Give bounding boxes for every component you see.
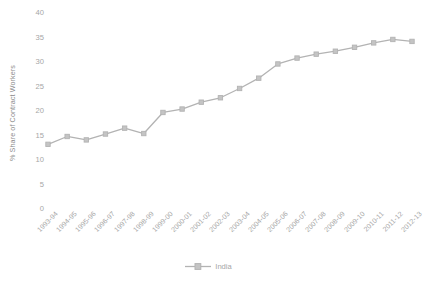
- y-axis-title: % Share of Contract Workers: [8, 0, 22, 48]
- data-point: [218, 96, 222, 100]
- data-point: [46, 142, 50, 146]
- legend-item-label-india: India: [215, 262, 231, 271]
- data-point: [65, 134, 69, 138]
- x-axis-tick-labels: 1993-941994-951995-961996-971997-981998-…: [48, 209, 412, 255]
- data-point: [257, 76, 261, 80]
- data-point: [276, 62, 280, 66]
- data-point: [371, 41, 375, 45]
- y-axis-tick-20: 20: [22, 107, 44, 115]
- y-axis-tick-5: 5: [22, 181, 44, 189]
- data-point: [103, 132, 107, 136]
- data-point: [199, 100, 203, 104]
- y-axis-tick-30: 30: [22, 58, 44, 66]
- series-markers-india: [46, 37, 414, 146]
- data-point: [84, 138, 88, 142]
- y-axis-tick-0: 0: [22, 205, 44, 213]
- series-line-india: [48, 39, 412, 144]
- data-point: [122, 126, 126, 130]
- y-axis-tick-25: 25: [22, 83, 44, 91]
- y-axis-tick-10: 10: [22, 156, 44, 164]
- data-point: [180, 107, 184, 111]
- data-point: [352, 45, 356, 49]
- data-point: [333, 49, 337, 53]
- data-point: [410, 39, 414, 43]
- data-point: [237, 86, 241, 90]
- line-square-marker-icon: [185, 262, 211, 271]
- chart-legend: India: [0, 259, 417, 273]
- y-axis-tick-35: 35: [22, 34, 44, 42]
- plot-area: [48, 13, 412, 209]
- data-point: [295, 56, 299, 60]
- data-point: [314, 52, 318, 56]
- data-point: [142, 131, 146, 135]
- y-axis-tick-15: 15: [22, 132, 44, 140]
- data-point: [391, 37, 395, 41]
- y-axis-tick-40: 40: [22, 9, 44, 17]
- data-point: [161, 110, 165, 114]
- y-axis-title-label: % Share of Contract Workers: [8, 48, 17, 178]
- series-canvas: [48, 13, 412, 209]
